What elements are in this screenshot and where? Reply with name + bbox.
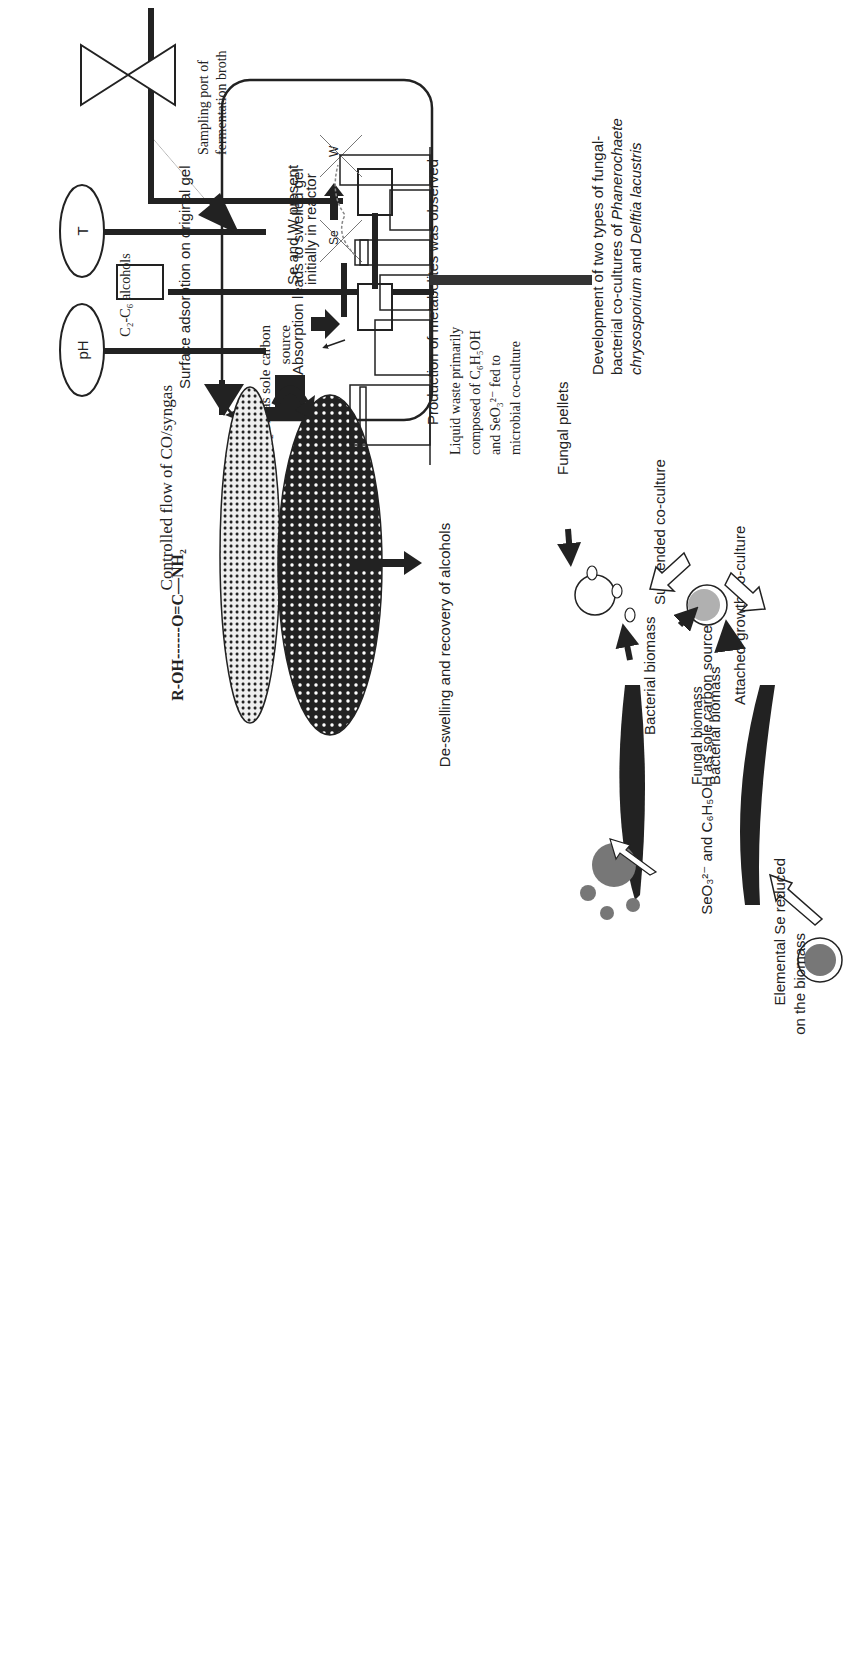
rotated-diagram: pH T Controlled flow of CO/syn xyxy=(60,8,842,1035)
sampling-valve-icon[interactable] xyxy=(81,45,175,105)
svg-text:W: W xyxy=(327,145,341,157)
se-particle-small-1 xyxy=(580,885,596,901)
development-line1: Development of two types of fungal- xyxy=(589,136,606,375)
diagram-stage: pH T Controlled flow of CO/syn xyxy=(0,0,857,1665)
reactor-vessel xyxy=(222,80,432,420)
impeller-bar xyxy=(341,263,347,317)
diagram-canvas: pH T Controlled flow of CO/syn xyxy=(0,0,857,1665)
impeller-blade-right xyxy=(358,169,392,215)
elemental-se-line1: Elemental Se reduced xyxy=(771,858,788,1006)
attached-fungal-core xyxy=(688,589,720,621)
attached-arrow-2-icon xyxy=(728,635,730,650)
development-line3: chrysosporium and Delftia lacustris xyxy=(627,142,644,375)
sampling-line-horizontal xyxy=(148,8,154,204)
fungal-pellets-label: Fungal pellets xyxy=(554,382,571,475)
development-line2: bacterial co-cultures of Phanerochaete xyxy=(608,118,625,375)
surface-adsorption-label: Surface adsorption on original gel xyxy=(176,166,193,389)
fungal-pellet-circle xyxy=(575,575,615,615)
se-attached-core xyxy=(804,944,836,976)
liquid-waste-line4: microbial co-culture xyxy=(508,341,523,455)
se-particle-small-3 xyxy=(600,906,614,920)
se-particle-small-2 xyxy=(626,898,640,912)
bacterium-ellipse-2 xyxy=(612,584,622,598)
bacterial-biomass-label: Bacterial biomass xyxy=(641,617,658,735)
absorption-label: Absorption leads to swelled gel xyxy=(289,168,306,375)
attached-arrow-1-icon xyxy=(680,615,690,625)
attached-label: Attached-growth co-culture xyxy=(731,526,748,705)
crossed-w-icon: W xyxy=(320,135,362,177)
liquid-waste-line2: composed of C₆H₅OH xyxy=(468,330,483,455)
fungal-pellets-arrow-icon xyxy=(568,529,570,555)
sampling-port-label-line1: Sampling port of xyxy=(196,60,211,155)
liquid-waste-line1: Liquid waste primarily xyxy=(448,327,463,455)
ph-sensor-label: pH xyxy=(74,340,91,359)
chemistry-label: R-OH------O=C—NH₂ xyxy=(169,549,186,701)
sampling-port-label-line2: fermentation broth xyxy=(214,50,229,155)
waste-pipe xyxy=(430,275,592,285)
elemental-se-line2: on the biomass xyxy=(791,933,808,1035)
se-w-input-arrow-icon xyxy=(311,309,340,339)
bacterium-ellipse-1 xyxy=(587,566,597,580)
bacterial-biomass-arrow-icon xyxy=(625,635,630,660)
alcohols-label: C₂-C₆ alcohols xyxy=(118,253,133,336)
temperature-sensor-label: T xyxy=(74,226,91,235)
deswelling-label: De-swelling and recovery of alcohols xyxy=(436,523,453,767)
carbon-source-curved-arrow-2 xyxy=(740,685,775,905)
coculture: Development of two types of fungal- bact… xyxy=(554,118,842,1035)
liquid-waste-line3: and SeO₃²⁻ fed to xyxy=(488,355,503,455)
deswelling-arrow-shaft xyxy=(350,559,405,567)
bacterium-ellipse-3 xyxy=(625,608,635,622)
impeller-connector xyxy=(372,213,378,289)
deswelling-arrow-head xyxy=(404,551,422,575)
carbon-source-label: SeO₃²⁻ and C₆H₅OH as sole carbon source xyxy=(698,625,715,915)
original-gel-ellipse xyxy=(220,387,280,723)
small-pointer-arrow-icon xyxy=(325,340,345,347)
